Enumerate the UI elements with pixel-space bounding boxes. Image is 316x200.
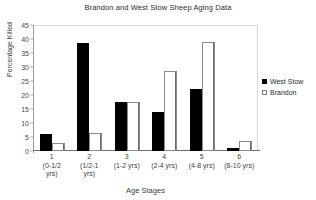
bar-edge-shadow-4 <box>176 71 177 151</box>
x-tick-label-4: 4(2-4 yrs) <box>146 153 184 170</box>
y-tick-label-10: 10 <box>21 120 29 127</box>
bar-west-stow-5 <box>190 89 202 151</box>
bar-edge-shadow-1 <box>64 143 65 151</box>
bar-edge-shadow-6 <box>251 141 252 151</box>
x-tick-index-2: 2 <box>71 153 109 162</box>
bar-west-stow-1 <box>40 134 52 151</box>
legend-label-2: Brandon <box>270 89 296 96</box>
x-tick-range-1: (0-1/2 <box>33 162 71 171</box>
y-tick-label-40: 40 <box>21 36 29 43</box>
bar-brandon-4 <box>164 71 176 151</box>
x-tick-label-2: 2(1/2-1yrs) <box>71 153 109 179</box>
y-tick-label-20: 20 <box>21 92 29 99</box>
x-tick-label-1: 1(0-1/2yrs) <box>33 153 71 179</box>
bar-west-stow-2 <box>77 43 89 151</box>
bar-brandon-6 <box>239 141 251 151</box>
x-tick-label-5: 5(4-8 yrs) <box>183 153 221 170</box>
y-axis-ticks: 051015202530354045 <box>0 25 33 151</box>
bars-layer <box>33 25 258 151</box>
x-tick-range-6: (8-10 yrs) <box>221 162 259 171</box>
x-tick-index-6: 6 <box>221 153 259 162</box>
x-tick-index-5: 5 <box>183 153 221 162</box>
x-tick-range-3: (1-2 yrs) <box>108 162 146 171</box>
legend-item-1[interactable]: West Stow <box>262 76 316 86</box>
chart-title: Brandon and West Stow Sheep Aging Data <box>0 3 316 12</box>
y-tick-label-0: 0 <box>25 148 29 155</box>
legend-item-2[interactable]: Brandon <box>262 87 316 97</box>
y-tick-label-30: 30 <box>21 64 29 71</box>
x-tick-index-4: 4 <box>146 153 184 162</box>
bar-edge-shadow-2 <box>101 133 102 151</box>
x-tick-range2-1: yrs) <box>33 170 71 179</box>
bar-west-stow-4 <box>152 112 164 151</box>
y-tick-label-5: 5 <box>25 134 29 141</box>
bar-group-2 <box>71 25 109 151</box>
y-tick-label-45: 45 <box>21 22 29 29</box>
bar-brandon-5 <box>202 42 214 151</box>
bar-west-stow-3 <box>115 102 127 151</box>
bar-brandon-3 <box>127 102 139 151</box>
x-tick-range-4: (2-4 yrs) <box>146 162 184 171</box>
bar-west-stow-6 <box>227 148 239 151</box>
bar-group-1 <box>33 25 71 151</box>
bar-chart: Brandon and West Stow Sheep Aging Data P… <box>0 0 316 200</box>
bar-edge-shadow-5 <box>214 42 215 151</box>
bar-group-5 <box>183 25 221 151</box>
y-tick-label-25: 25 <box>21 78 29 85</box>
x-tick-index-3: 3 <box>108 153 146 162</box>
y-tick-label-35: 35 <box>21 50 29 57</box>
x-tick-index-1: 1 <box>33 153 71 162</box>
y-tick-label-15: 15 <box>21 106 29 113</box>
x-tick-label-6: 6(8-10 yrs) <box>221 153 259 170</box>
bar-group-4 <box>146 25 184 151</box>
x-tick-range-2: (1/2-1 <box>71 162 109 171</box>
bar-group-6 <box>221 25 259 151</box>
x-tick-label-3: 3(1-2 yrs) <box>108 153 146 170</box>
bar-brandon-1 <box>52 143 64 151</box>
x-axis-labels: 1(0-1/2yrs)2(1/2-1yrs)3(1-2 yrs)4(2-4 yr… <box>33 153 258 189</box>
x-tick-range2-2: yrs) <box>71 170 109 179</box>
legend-swatch-icon-1 <box>262 79 267 84</box>
bar-brandon-2 <box>89 133 101 151</box>
bar-group-3 <box>108 25 146 151</box>
x-tick-range-5: (4-8 yrs) <box>183 162 221 171</box>
legend-swatch-icon-2 <box>262 90 267 95</box>
bar-edge-shadow-3 <box>139 102 140 151</box>
x-axis-title: Age Stages <box>33 186 258 195</box>
chart-legend: West StowBrandon <box>262 76 316 98</box>
legend-label-1: West Stow <box>270 78 303 85</box>
